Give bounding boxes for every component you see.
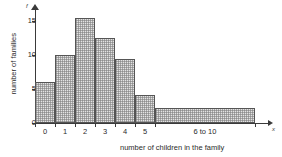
histogram-bar <box>95 38 115 123</box>
x-axis-title: number of children in the family <box>120 144 224 152</box>
histogram-bar <box>155 108 255 123</box>
x-tick-mark <box>75 123 76 127</box>
x-tick-mark <box>155 123 156 127</box>
histogram-bar <box>55 55 75 123</box>
x-tick-mark <box>55 123 56 127</box>
y-tick-label: 0 <box>10 119 36 127</box>
x-axis-symbol: x <box>272 126 275 132</box>
x-tick-mark <box>255 123 256 127</box>
x-axis-line <box>35 123 269 124</box>
histogram-bar <box>75 18 95 123</box>
histogram-bar <box>115 59 135 123</box>
x-tick-label: 5 <box>120 128 170 136</box>
y-tick-label: 15 <box>10 17 36 25</box>
histogram-figure: f x 051015 0123456 to 10 number of child… <box>0 0 282 157</box>
x-tick-mark <box>95 123 96 127</box>
histogram-bar <box>35 82 55 123</box>
x-tick-mark <box>35 123 36 127</box>
histogram-bar <box>135 95 155 123</box>
x-tick-mark <box>115 123 116 127</box>
y-axis-title: number of families <box>10 26 18 102</box>
x-tick-mark <box>135 123 136 127</box>
y-axis-arrow-icon <box>31 4 39 10</box>
y-axis-symbol: f <box>26 3 28 9</box>
x-tick-label: 6 to 10 <box>180 128 230 136</box>
